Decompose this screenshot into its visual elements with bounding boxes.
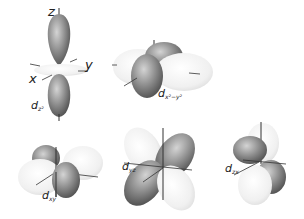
label-dxy: dxy: [42, 190, 56, 202]
orbital-dxy: [18, 145, 103, 198]
label-dx2-y2: dx²−y²: [158, 88, 182, 100]
axis-label-x: x: [29, 72, 37, 85]
axis-label-z: z: [48, 5, 55, 18]
dz2-bottom-lobe: [48, 74, 71, 117]
d-orbitals-diagram: [0, 0, 304, 219]
orbital-dzx: [233, 122, 286, 205]
label-dzx: dzx: [225, 163, 239, 175]
dz2-torus: [34, 64, 88, 76]
dz2-top-lobe: [48, 14, 71, 66]
axis-label-y: y: [85, 58, 93, 71]
label-dz2: dz²: [31, 100, 44, 112]
label-dyz: dyz: [122, 161, 136, 173]
